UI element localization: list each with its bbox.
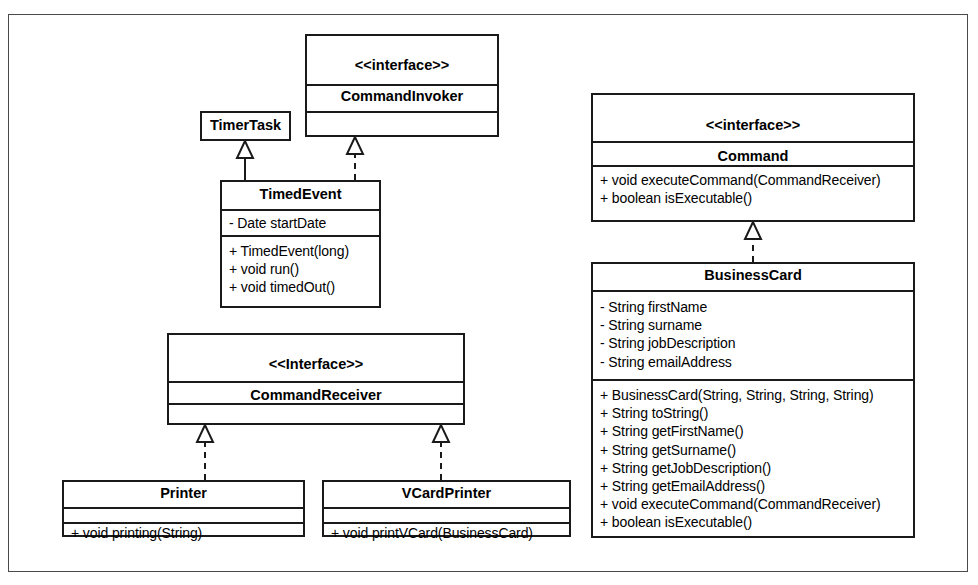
diagram-canvas: TimerTask <<interface>> CommandInvoker T… xyxy=(0,0,978,585)
operations-compartment-commandinvoker xyxy=(307,111,497,139)
attribute-item: - String jobDescription xyxy=(600,334,907,352)
operation-item: + String getEmailAddress() xyxy=(600,477,907,495)
operation-item: + void printing(String) xyxy=(71,524,297,542)
class-header-commandreceiver: <<Interface>> CommandReceiver xyxy=(169,335,463,381)
operation-item: + String toString() xyxy=(600,404,907,422)
relationship-timedevent-timertask xyxy=(237,141,253,180)
attribute-item: - Date startDate xyxy=(229,214,373,232)
class-name-command: Command xyxy=(718,148,789,164)
class-stereotype-commandreceiver: <<Interface>> xyxy=(173,357,459,373)
class-name-printer: Printer xyxy=(64,482,303,507)
class-box-commandinvoker[interactable]: <<interface>> CommandInvoker xyxy=(305,34,499,137)
attributes-compartment-timedevent: - Date startDate xyxy=(222,209,379,235)
operations-compartment-timedevent: + TimedEvent(long) + void run() + void t… xyxy=(222,235,379,310)
operation-item: + String getSurname() xyxy=(600,441,907,459)
class-name-timertask: TimerTask xyxy=(202,113,289,139)
operation-item: + void run() xyxy=(229,260,373,278)
relationship-vcardprinter-commandreceiver xyxy=(433,425,449,480)
attributes-compartment-printer xyxy=(64,507,303,522)
attribute-item: - String firstName xyxy=(600,298,907,316)
relationship-businesscard-command xyxy=(745,222,761,262)
operations-compartment-vcardprinter: + void printVCard(BusinessCard) xyxy=(324,522,569,539)
class-box-timedevent[interactable]: TimedEvent - Date startDate + TimedEvent… xyxy=(220,180,381,308)
class-name-vcardprinter: VCardPrinter xyxy=(324,482,569,507)
operation-item: + String getFirstName() xyxy=(600,422,907,440)
operations-compartment-commandreceiver xyxy=(169,403,463,427)
operation-item: + TimedEvent(long) xyxy=(229,242,373,260)
operation-item: + void executeCommand(CommandReceiver) xyxy=(600,171,907,189)
operation-item: + void printVCard(BusinessCard) xyxy=(331,524,563,542)
attributes-compartment-vcardprinter xyxy=(324,507,569,522)
class-box-vcardprinter[interactable]: VCardPrinter + void printVCard(BusinessC… xyxy=(322,480,571,537)
class-header-commandinvoker: <<interface>> CommandInvoker xyxy=(307,36,497,84)
class-box-timertask[interactable]: TimerTask xyxy=(200,111,291,141)
relationship-printer-commandreceiver xyxy=(197,425,213,480)
operation-item: + boolean isExecutable() xyxy=(600,513,907,531)
operations-compartment-command: + void executeCommand(CommandReceiver) +… xyxy=(593,165,913,224)
class-box-commandreceiver[interactable]: <<Interface>> CommandReceiver xyxy=(167,333,465,425)
operation-item: + boolean isExecutable() xyxy=(600,189,907,207)
attributes-compartment-businesscard: - String firstName - String surname - St… xyxy=(593,290,913,379)
operation-item: + void timedOut() xyxy=(229,278,373,296)
class-box-command[interactable]: <<interface>> Command + void executeComm… xyxy=(591,93,915,222)
class-header-command: <<interface>> Command xyxy=(593,95,913,141)
class-name-timedevent: TimedEvent xyxy=(222,182,379,209)
relationship-timedevent-commandinvoker xyxy=(347,137,363,180)
operation-item: + BusinessCard(String, String, String, S… xyxy=(600,386,907,404)
class-name-businesscard: BusinessCard xyxy=(593,264,913,290)
operation-item: + void executeCommand(CommandReceiver) xyxy=(600,495,907,513)
operations-compartment-businesscard: + BusinessCard(String, String, String, S… xyxy=(593,379,913,540)
class-stereotype-command: <<interface>> xyxy=(597,118,909,134)
class-name-commandinvoker: CommandInvoker xyxy=(341,88,463,104)
class-box-printer[interactable]: Printer + void printing(String) xyxy=(62,480,305,537)
class-box-businesscard[interactable]: BusinessCard - String firstName - String… xyxy=(591,262,915,538)
operations-compartment-printer: + void printing(String) xyxy=(64,522,303,539)
attribute-item: - String emailAddress xyxy=(600,353,907,371)
class-stereotype-commandinvoker: <<interface>> xyxy=(311,58,493,74)
attribute-item: - String surname xyxy=(600,316,907,334)
class-name-commandreceiver: CommandReceiver xyxy=(250,387,381,403)
operation-item: + String getJobDescription() xyxy=(600,459,907,477)
